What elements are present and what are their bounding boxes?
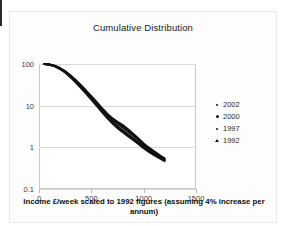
x-tick-mark: [39, 189, 40, 193]
scan-edge-artifact: [0, 0, 2, 26]
y-gridline: [39, 189, 196, 190]
legend-marker-icon: [213, 125, 221, 133]
x-tick-mark: [196, 189, 197, 193]
chart-title: Cumulative Distribution: [10, 22, 276, 33]
legend-label: 2000: [223, 112, 240, 121]
legend-label: 1997: [223, 124, 240, 133]
legend-marker-icon: [213, 113, 221, 121]
legend-item-1992[interactable]: 1992: [213, 135, 249, 146]
x-tick-mark: [144, 189, 145, 193]
series-line-1997: [44, 64, 164, 158]
legend-label: 2002: [223, 100, 240, 109]
legend-marker-icon: [213, 137, 221, 145]
legend-item-2002[interactable]: 2002: [213, 99, 249, 110]
legend-item-2000[interactable]: 2000: [213, 111, 249, 122]
chart-figure: Cumulative Distribution 1001010.1 050010…: [9, 11, 277, 223]
chart-legend[interactable]: 2002200019971992: [210, 95, 252, 151]
legend-marker-icon: [213, 101, 221, 109]
legend-label: 1992: [223, 136, 240, 145]
y-tick-label: 10: [8, 101, 34, 110]
data-series-layer: [39, 64, 196, 189]
y-tick-label: 1: [8, 143, 34, 152]
y-tick-label: 100: [8, 60, 34, 69]
y-tick-label: 0.1: [8, 185, 34, 194]
legend-item-1997[interactable]: 1997: [213, 123, 249, 134]
x-axis-caption: Income £/week scaled to 1992 figures (as…: [18, 197, 270, 217]
x-tick-mark: [91, 189, 92, 193]
